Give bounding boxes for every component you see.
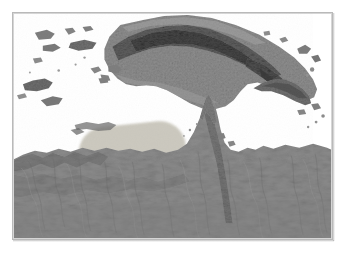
- frame-right-shadow: [333, 13, 335, 241]
- relief-map-figure: [0, 0, 346, 254]
- frame-bottom-shadow: [13, 240, 334, 242]
- map-canvas[interactable]: [13, 13, 332, 239]
- relief-raster: [13, 13, 332, 239]
- map-frame: [12, 12, 333, 240]
